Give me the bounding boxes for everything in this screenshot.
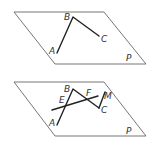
label-b: B: [64, 12, 70, 22]
label-e: E: [59, 95, 65, 105]
label-c: C: [101, 105, 108, 115]
label-p: P: [126, 53, 132, 63]
label-a: A: [48, 118, 55, 128]
label-b: B: [64, 84, 70, 94]
figure-top: B A C P: [14, 12, 146, 64]
label-c: C: [101, 34, 108, 44]
figure-bottom: B E F M A C P: [14, 82, 146, 136]
label-m: M: [104, 91, 112, 101]
polyline-abc: [57, 17, 99, 53]
label-f: F: [86, 88, 92, 98]
geometry-diagram: B A C P B E F M A C P: [0, 0, 152, 149]
label-a: A: [48, 46, 55, 56]
label-p: P: [126, 126, 132, 136]
